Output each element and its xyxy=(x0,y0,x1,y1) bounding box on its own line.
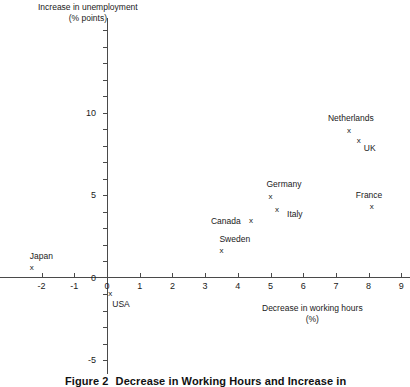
x-tick xyxy=(238,273,239,277)
x-tick xyxy=(303,273,304,277)
y-tick-label: 10 xyxy=(74,108,96,118)
x-tick-label: 6 xyxy=(293,281,313,291)
data-point-label-sweden: Sweden xyxy=(219,235,250,244)
x-tick-label: 1 xyxy=(130,281,150,291)
data-point-marker-italy: x xyxy=(273,206,281,214)
y-tick xyxy=(103,228,108,229)
x-tick-label: 7 xyxy=(326,281,346,291)
data-point-label-france: France xyxy=(356,191,382,200)
data-point-label-germany: Germany xyxy=(267,180,302,189)
data-point-marker-uk: x xyxy=(355,137,363,145)
data-point-marker-japan: x xyxy=(28,264,36,272)
y-axis-line xyxy=(107,18,108,374)
y-tick xyxy=(103,162,108,163)
data-point-marker-usa: x xyxy=(106,290,114,298)
data-point-marker-germany: x xyxy=(267,193,275,201)
figure-caption-text: Decrease in Working Hours and Increase i… xyxy=(116,375,347,387)
x-tick xyxy=(42,273,43,277)
y-tick-label: 5 xyxy=(74,190,96,200)
x-tick xyxy=(369,273,370,277)
y-axis-title-line2: (% points) xyxy=(38,13,138,24)
x-tick-label: 4 xyxy=(228,281,248,291)
x-tick xyxy=(271,273,272,277)
x-axis-title-line2: (%) xyxy=(262,314,363,325)
x-tick xyxy=(401,273,402,277)
x-tick-label: -2 xyxy=(32,281,52,291)
y-tick xyxy=(103,146,108,147)
x-tick-label: 9 xyxy=(391,281,410,291)
x-tick xyxy=(205,273,206,277)
x-tick-label: 3 xyxy=(195,281,215,291)
y-tick xyxy=(103,212,108,213)
x-tick xyxy=(172,273,173,277)
figure-caption: Figure 2Decrease in Working Hours and In… xyxy=(65,375,346,387)
data-point-label-uk: UK xyxy=(364,144,376,153)
y-tick xyxy=(103,63,108,64)
y-tick xyxy=(103,360,108,361)
y-tick xyxy=(103,344,108,345)
y-tick xyxy=(103,129,108,130)
y-tick xyxy=(103,80,108,81)
x-tick xyxy=(107,273,108,277)
y-tick xyxy=(103,327,108,328)
data-point-label-canada: Canada xyxy=(211,217,241,226)
y-tick xyxy=(103,30,108,31)
y-axis-title: Increase in unemployment (% points) xyxy=(38,2,138,23)
y-tick xyxy=(103,245,108,246)
y-axis-title-line1: Increase in unemployment xyxy=(38,2,138,13)
y-tick xyxy=(103,195,108,196)
x-tick-label: 8 xyxy=(359,281,379,291)
data-point-marker-canada: x xyxy=(247,217,255,225)
y-tick xyxy=(103,47,108,48)
y-tick xyxy=(103,261,108,262)
y-tick xyxy=(103,179,108,180)
data-point-marker-netherlands: x xyxy=(345,127,353,135)
x-tick-label: 5 xyxy=(261,281,281,291)
data-point-label-japan: Japan xyxy=(30,252,53,261)
y-tick xyxy=(103,311,108,312)
x-axis-title: Decrease in working hours (%) xyxy=(262,303,363,324)
x-axis-title-line1: Decrease in working hours xyxy=(262,303,363,314)
y-tick-label: 0 xyxy=(74,273,96,283)
y-tick-label: -5 xyxy=(74,355,96,365)
x-tick-label: -1 xyxy=(64,281,84,291)
data-point-marker-france: x xyxy=(368,203,376,211)
x-tick-label: 2 xyxy=(162,281,182,291)
data-point-label-italy: Italy xyxy=(287,210,303,219)
scatter-plot-figure: Increase in unemployment (% points) Decr… xyxy=(0,0,410,387)
data-point-marker-sweden: x xyxy=(217,247,225,255)
x-tick xyxy=(140,273,141,277)
x-tick xyxy=(336,273,337,277)
figure-number: Figure 2 xyxy=(65,375,109,387)
data-point-label-netherlands: Netherlands xyxy=(328,114,374,123)
y-tick xyxy=(103,113,108,114)
data-point-label-usa: USA xyxy=(112,300,129,309)
y-tick xyxy=(103,96,108,97)
x-axis-line xyxy=(0,277,410,278)
